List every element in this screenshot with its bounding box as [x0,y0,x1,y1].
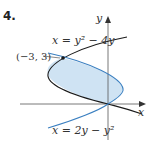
curve-black-label: x = y² − 4y [52,34,115,47]
intersection-label: (−3, 3) [16,51,51,62]
x-axis-label: x [138,106,145,119]
diagram: 4. y x x = y² − 4y x = 2y − y² (−3, 3) [0,0,151,150]
shaded-region [48,58,123,104]
y-axis-arrow-icon [105,16,111,23]
intersection-point [61,56,65,60]
curve-blue-label: x = 2y − y² [52,124,114,137]
problem-number: 4. [3,9,16,23]
y-axis-label: y [95,12,103,25]
